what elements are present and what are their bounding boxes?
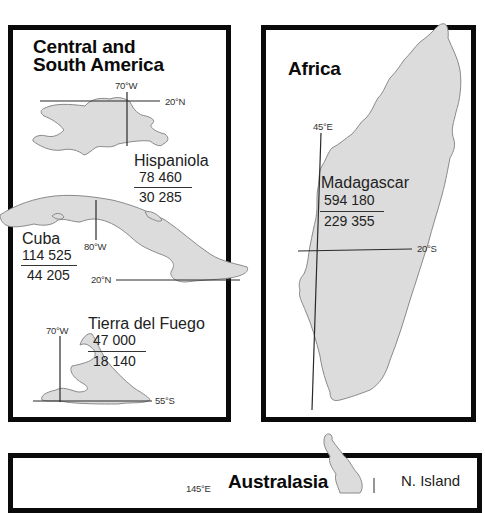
- tdf-area-sqmi: 18 140: [93, 354, 136, 369]
- hispaniola-name: Hispaniola: [134, 152, 209, 169]
- tdf-lon-label: 70°W: [46, 326, 68, 336]
- cuba-fraction-rule: [21, 265, 77, 266]
- hispaniola-lon-label: 70°W: [115, 81, 137, 91]
- tdf-lat-label: 55°S: [155, 396, 175, 406]
- madagascar-area-km2: 594 180: [324, 193, 375, 208]
- csa-title: Central and South America: [33, 38, 164, 74]
- madagascar-lat-label: 20°S: [417, 244, 437, 254]
- north-island-name: N. Island: [401, 472, 460, 489]
- hispaniola-area-km2: 78 460: [139, 170, 182, 185]
- tdf-fraction-rule: [88, 351, 146, 352]
- hispaniola-map: [33, 98, 168, 155]
- tdf-name: Tierra del Fuego: [88, 315, 205, 332]
- madagascar-lon-label: 45°E: [313, 122, 333, 132]
- hispaniola-area-sqmi: 30 285: [139, 190, 182, 205]
- north-island-map: [324, 434, 362, 493]
- madagascar-name: Madagascar: [321, 174, 409, 191]
- cuba-lon-label: 80°W: [84, 242, 106, 252]
- africa-title: Africa: [288, 60, 341, 78]
- hispaniola-lat-label: 20°N: [165, 97, 185, 107]
- australasia-lon-label: 145°E: [186, 484, 211, 494]
- hispaniola-fraction-rule: [134, 187, 192, 188]
- cuba-lat-label: 20°N: [91, 275, 111, 285]
- csa-title-line2: South America: [33, 56, 164, 74]
- madagascar-area-sqmi: 229 355: [324, 214, 375, 229]
- australasia-title: Australasia: [228, 473, 328, 491]
- tdf-area-km2: 47 000: [93, 333, 136, 348]
- cuba-name: Cuba: [22, 230, 60, 247]
- cuba-area-km2: 114 525: [22, 248, 72, 263]
- madagascar-fraction-rule: [320, 211, 384, 212]
- cuba-area-sqmi: 44 205: [27, 268, 70, 283]
